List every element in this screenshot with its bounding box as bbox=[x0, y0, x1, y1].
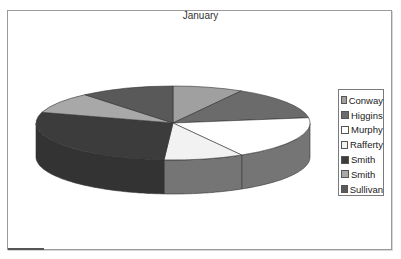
legend-swatch bbox=[341, 126, 349, 134]
legend-item: Higgins bbox=[341, 108, 383, 123]
legend-swatch bbox=[341, 156, 349, 164]
legend-label: Sullivan bbox=[350, 184, 383, 195]
legend-label: Murphy bbox=[351, 124, 383, 135]
legend-label: Conway bbox=[349, 95, 383, 106]
divider bbox=[8, 248, 44, 250]
legend-swatch bbox=[341, 141, 348, 149]
legend-label: Smith bbox=[351, 154, 375, 165]
legend-label: Smith bbox=[351, 169, 375, 180]
legend-label: Rafferty bbox=[350, 139, 383, 150]
legend-item: Smith bbox=[341, 167, 383, 182]
legend-swatch bbox=[341, 170, 349, 178]
legend-item: Murphy bbox=[341, 123, 383, 138]
legend-item: Rafferty bbox=[341, 137, 383, 152]
legend-swatch bbox=[341, 185, 348, 193]
pie-top-faces bbox=[36, 86, 310, 160]
legend-item: Conway bbox=[341, 93, 383, 108]
legend-swatch bbox=[341, 111, 349, 119]
legend-item: Smith bbox=[341, 152, 383, 167]
legend-swatch bbox=[341, 96, 347, 104]
legend-label: Higgins bbox=[351, 110, 383, 121]
legend-item: Sullivan bbox=[341, 182, 383, 197]
pie-slice-side bbox=[164, 155, 242, 194]
legend: ConwayHigginsMurphyRaffertySmithSmithSul… bbox=[338, 89, 384, 196]
